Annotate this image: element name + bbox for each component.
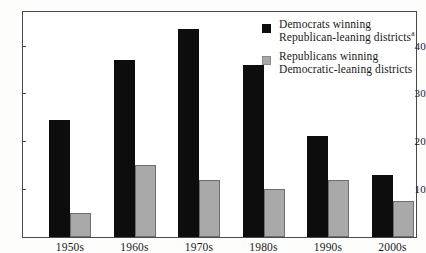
bar-1950s-republicans — [70, 213, 91, 237]
bar-2000s-republicans — [393, 201, 414, 237]
x-tick-label-1960s: 1960s — [105, 241, 165, 253]
bar-1960s-democrats — [114, 60, 135, 237]
legend-label-line1: Republicans winning — [279, 50, 412, 63]
legend-label-line2: Democratic-leaning districts — [279, 63, 412, 76]
x-tick-label-1970s: 1970s — [169, 241, 229, 253]
legend-label-line2-text: Democratic-leaning districts — [279, 63, 412, 75]
chart-figure: 10203040 1950s1960s1970s1980s1990s2000s … — [0, 0, 426, 253]
legend-label-line1: Democrats winning — [279, 18, 412, 31]
x-tick-label-1950s: 1950s — [40, 241, 100, 253]
legend-footnote-marker: a — [411, 29, 414, 38]
chart-legend: Democrats winningRepublican-leaning dist… — [262, 18, 412, 82]
bar-1970s-democrats — [178, 29, 199, 237]
bar-2000s-democrats — [372, 175, 393, 237]
legend-entry-republicans: Republicans winningDemocratic-leaning di… — [262, 50, 412, 75]
bar-1950s-democrats — [49, 120, 70, 237]
bar-1970s-republicans — [199, 180, 220, 237]
legend-swatch-rep — [262, 56, 271, 65]
bar-1960s-republicans — [135, 165, 156, 237]
bar-1990s-republicans — [328, 180, 349, 237]
legend-swatch-dem — [262, 24, 271, 33]
legend-label-line2-text: Republican-leaning districts — [279, 31, 411, 43]
legend-label-line2: Republican-leaning districtsa — [279, 31, 412, 44]
bar-1990s-democrats — [307, 136, 328, 237]
bar-1980s-republicans — [264, 189, 285, 237]
legend-entry-democrats: Democrats winningRepublican-leaning dist… — [262, 18, 412, 43]
x-tick-label-2000s: 2000s — [363, 241, 423, 253]
x-tick-label-1980s: 1980s — [234, 241, 294, 253]
bar-1980s-democrats — [243, 65, 264, 237]
x-tick-label-1990s: 1990s — [298, 241, 358, 253]
